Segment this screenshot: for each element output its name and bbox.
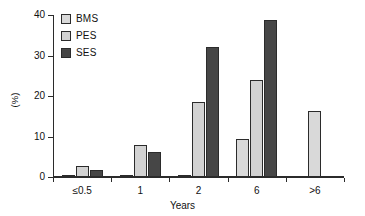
bar-ses-3 bbox=[264, 20, 277, 177]
chart-legend: BMSPESSES bbox=[61, 11, 98, 62]
legend-label: BMS bbox=[76, 13, 98, 24]
x-tick-label: 6 bbox=[227, 185, 287, 196]
x-tick-mark bbox=[228, 178, 229, 182]
legend-item-pes: PES bbox=[61, 28, 98, 43]
y-tick-label-wrap: 40 bbox=[15, 10, 45, 20]
bar-pes-3 bbox=[250, 80, 263, 177]
y-tick-label: 10 bbox=[19, 132, 45, 142]
x-tick-label: 2 bbox=[169, 185, 229, 196]
legend-item-bms: BMS bbox=[61, 11, 98, 26]
y-tick-label-wrap: 10 bbox=[15, 132, 45, 142]
y-tick-label: 40 bbox=[19, 10, 45, 20]
bar-pes-2 bbox=[192, 102, 205, 177]
y-tick-label: 30 bbox=[19, 51, 45, 61]
x-tick-mark bbox=[344, 178, 345, 182]
x-tick-label: >6 bbox=[285, 185, 345, 196]
x-tick-label: 1 bbox=[110, 185, 170, 196]
x-tick-mark bbox=[169, 178, 170, 182]
legend-item-ses: SES bbox=[61, 45, 98, 60]
bar-bms-3 bbox=[236, 139, 249, 177]
bar-ses-1 bbox=[148, 152, 161, 177]
legend-label: PES bbox=[76, 30, 97, 41]
y-tick-label-wrap: 30 bbox=[15, 51, 45, 61]
x-axis-title: Years bbox=[0, 200, 365, 211]
legend-swatch-icon bbox=[61, 31, 71, 41]
x-axis-line bbox=[53, 176, 344, 178]
y-axis-title: (%) bbox=[10, 80, 20, 120]
bar-chart: 010203040 (%) ≤0.5126>6 Years BMSPESSES bbox=[0, 0, 365, 216]
legend-label: SES bbox=[76, 47, 97, 58]
x-tick-mark bbox=[111, 178, 112, 182]
y-tick-label: 0 bbox=[19, 172, 45, 182]
legend-swatch-icon bbox=[61, 14, 71, 24]
y-tick-label-wrap: 0 bbox=[15, 172, 45, 182]
x-tick-mark bbox=[286, 178, 287, 182]
bar-pes-1 bbox=[134, 145, 147, 177]
bar-ses-2 bbox=[206, 47, 219, 177]
bar-bms-4 bbox=[308, 111, 321, 177]
x-tick-mark bbox=[53, 178, 54, 182]
x-tick-label: ≤0.5 bbox=[52, 185, 112, 196]
legend-swatch-icon bbox=[61, 48, 71, 58]
y-tick-label: 20 bbox=[19, 91, 45, 101]
